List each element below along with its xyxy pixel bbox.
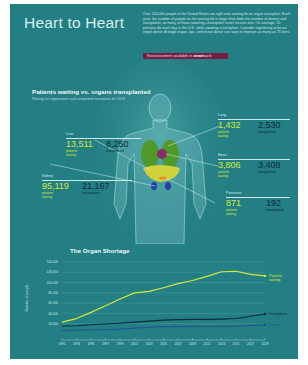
x-tick-label: 2019 — [261, 342, 268, 346]
series-legend-label: Transplants — [269, 312, 288, 316]
x-tick-label: 1991 — [58, 342, 65, 346]
x-tick-label: 2001 — [131, 342, 138, 346]
series-legend-label: waiting — [269, 278, 280, 282]
x-tick-label: 1997 — [102, 342, 109, 346]
infographic-page: Heart to Heart Over 100,000 people in th… — [10, 4, 298, 359]
y-tick-label: 20,000 — [48, 322, 58, 326]
series-end-marker — [264, 313, 266, 315]
series-line-patients-waiting — [62, 271, 265, 322]
x-tick-label: 2017 — [247, 342, 254, 346]
y-tick-label: 140,000 — [46, 260, 58, 264]
x-tick-label: 2013 — [218, 342, 225, 346]
x-tick-label: 1999 — [116, 342, 123, 346]
series-line-transplants — [62, 314, 265, 326]
y-axis-label: Number of people — [25, 284, 29, 311]
series-line-donors — [62, 325, 265, 331]
y-tick-label: 80,000 — [48, 291, 58, 295]
x-tick-label: 2007 — [174, 342, 181, 346]
series-end-marker — [264, 275, 266, 277]
series-legend-label: Donors — [269, 323, 281, 327]
x-tick-label: 1995 — [87, 342, 94, 346]
x-tick-label: 2011 — [204, 342, 211, 346]
series-end-marker — [264, 324, 266, 326]
y-tick-label: 100,000 — [46, 281, 58, 285]
y-tick-label: 40,000 — [48, 312, 58, 316]
x-tick-label: 2015 — [232, 342, 239, 346]
organ-shortage-line-chart: 140,000120,000100,00080,00060,00040,0002… — [10, 4, 298, 359]
x-tick-label: 2009 — [189, 342, 196, 346]
y-tick-label: 60,000 — [48, 301, 58, 305]
x-tick-label: 2003 — [145, 342, 152, 346]
y-tick-label: 120,000 — [46, 270, 58, 274]
x-tick-label: 2005 — [160, 342, 167, 346]
x-tick-label: 1993 — [73, 342, 80, 346]
